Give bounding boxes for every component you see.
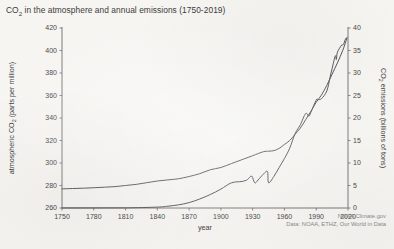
credit-source: NOAA Climate.gov [286,213,386,221]
series-line-concentration [62,38,347,189]
y-axis-left-tick-label: 320 [45,137,57,144]
y-axis-left: 260280300320340360380400420 [45,24,62,211]
x-axis-tick-label: 1930 [245,213,261,220]
y-axis-right-tick-label: 25 [353,92,361,99]
y-axis-left-tick-label: 420 [45,24,57,31]
y-axis-left-tick-label: 280 [45,182,57,189]
y-axis-left-tick-label: 400 [45,47,57,54]
y-axis-right-tick-label: 10 [353,159,361,166]
y-axis-right-tick-label: 5 [353,182,357,189]
x-axis-tick-label: 1840 [150,213,166,220]
y-axis-right-tick-label: 40 [353,24,361,31]
y-axis-right-tick-label: 0 [353,204,357,211]
y-axis-left-title: atmospheric CO2 (parts per million) [7,62,17,174]
axis-titles-group: yearatmospheric CO2 (parts per million)C… [7,62,388,232]
x-axis-tick-label: 1780 [86,213,102,220]
y-axis-right-tick-label: 35 [353,47,361,54]
chart-figure: 260280300320340360380400420 051015202530… [0,0,394,249]
y-axis-left-tick-label: 340 [45,114,57,121]
y-axis-right-tick-label: 15 [353,137,361,144]
y-axis-right: 0510152025303540 [348,24,361,211]
y-axis-right-tick-label: 30 [353,69,361,76]
data-series-group [62,37,347,208]
y-axis-left-tick-label: 300 [45,159,57,166]
y-axis-left-tick-label: 380 [45,69,57,76]
chart-canvas: 260280300320340360380400420 051015202530… [0,0,394,249]
credit-data: Data: NOAA, ETHZ, Our World in Data [286,221,386,229]
y-axis-right-tick-label: 20 [353,114,361,121]
y-axis-right-title: CO2 emissions (billions of tons) [378,68,388,168]
x-axis-tick-label: 1900 [213,213,229,220]
x-axis-tick-label: 1750 [54,213,70,220]
credit-block: NOAA Climate.gov Data: NOAA, ETHZ, Our W… [286,213,386,229]
x-axis-title: year [198,223,213,232]
y-axis-left-tick-label: 360 [45,92,57,99]
x-axis-tick-label: 1870 [181,213,197,220]
x-axis-tick-label: 1810 [118,213,134,220]
y-axis-left-tick-label: 260 [45,204,57,211]
